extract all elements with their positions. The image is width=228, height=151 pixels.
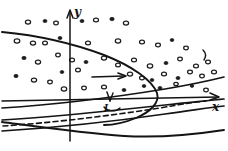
figure-root: y x L — [0, 0, 228, 151]
particle — [84, 60, 88, 63]
particle — [127, 72, 132, 76]
particle — [102, 85, 107, 89]
particle — [206, 60, 211, 64]
particle — [170, 39, 174, 42]
particle — [30, 41, 35, 45]
particle — [140, 40, 145, 44]
particle — [122, 88, 126, 91]
particle — [48, 80, 53, 84]
particle — [132, 58, 137, 62]
particle — [82, 86, 87, 90]
particle — [204, 88, 209, 92]
particle — [150, 79, 154, 82]
particle — [123, 21, 128, 25]
particle — [86, 41, 91, 45]
particle — [25, 20, 30, 24]
particle — [188, 70, 193, 74]
parabolic-boundary-curve — [2, 32, 158, 125]
particle — [58, 36, 62, 39]
particle — [174, 82, 178, 85]
particle — [80, 19, 84, 22]
particle — [142, 85, 146, 88]
particle — [156, 43, 161, 47]
particle — [14, 74, 18, 77]
scattered-particles — [14, 17, 217, 92]
particle — [22, 56, 26, 59]
particle — [178, 57, 183, 61]
particle — [76, 68, 81, 72]
flow-direction-arrow — [92, 73, 126, 79]
x-axis-label: x — [211, 100, 220, 114]
particle — [194, 64, 199, 68]
particle — [115, 39, 120, 43]
particle — [43, 19, 47, 22]
stray-tick-mark — [203, 50, 205, 60]
y-axis-label: y — [73, 5, 82, 19]
particle — [200, 74, 205, 78]
particle — [212, 70, 217, 74]
particle — [35, 60, 40, 64]
particle — [60, 71, 64, 74]
particle — [110, 17, 114, 20]
particle — [94, 18, 99, 22]
particle — [162, 72, 167, 76]
particle — [54, 21, 59, 25]
particle — [184, 46, 189, 50]
particle — [31, 78, 36, 82]
particle — [176, 76, 180, 79]
vertex-annotation-label: L — [103, 103, 110, 113]
particle — [116, 63, 121, 67]
particle — [164, 61, 168, 64]
particle — [56, 53, 61, 57]
particle — [147, 64, 152, 68]
particle — [61, 87, 66, 91]
particle — [43, 41, 48, 45]
sketch-canvas: y x L — [0, 0, 228, 151]
particle — [14, 39, 20, 43]
